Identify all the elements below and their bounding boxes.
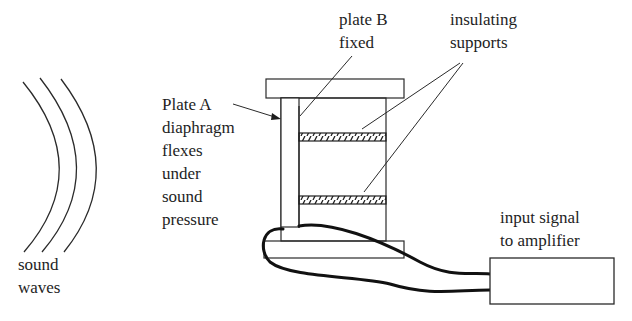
leader-plate-b bbox=[300, 56, 352, 116]
leader-plate-a bbox=[233, 104, 278, 118]
label-line: under bbox=[162, 162, 235, 185]
label-plate-a: Plate A diaphragm flexes under sound pre… bbox=[162, 93, 235, 231]
label-line: pressure bbox=[162, 208, 235, 231]
wire-plate-a bbox=[263, 229, 490, 292]
insulating-support-lower bbox=[299, 196, 386, 204]
label-line: waves bbox=[18, 276, 60, 299]
amplifier-box bbox=[490, 258, 614, 304]
insulating-support-upper bbox=[299, 133, 386, 141]
label-line: Plate A bbox=[162, 93, 235, 116]
leader-lines bbox=[233, 56, 463, 192]
sound-waves bbox=[23, 78, 96, 252]
label-sound-waves: sound waves bbox=[18, 253, 60, 299]
arrowhead-icon bbox=[271, 113, 281, 120]
label-line: fixed bbox=[339, 31, 388, 54]
label-line: diaphragm bbox=[162, 116, 235, 139]
sound-wave-arc-1 bbox=[23, 82, 59, 252]
sound-wave-arc-2 bbox=[40, 78, 77, 252]
label-line: plate B bbox=[339, 8, 388, 31]
label-line: insulating bbox=[450, 8, 517, 31]
wire-plate-b bbox=[299, 225, 490, 274]
leader-support-upper bbox=[362, 63, 460, 129]
label-line: input signal bbox=[500, 206, 580, 229]
leader-support-lower bbox=[364, 63, 463, 192]
label-insulating-supports: insulating supports bbox=[450, 8, 517, 54]
label-line: flexes bbox=[162, 139, 235, 162]
insulating-supports bbox=[299, 133, 386, 204]
microphone-diagram bbox=[0, 0, 632, 321]
sound-wave-arc-3 bbox=[61, 79, 96, 252]
label-plate-b: plate B fixed bbox=[339, 8, 388, 54]
label-line: to amplifier bbox=[500, 229, 580, 252]
label-line: supports bbox=[450, 31, 517, 54]
top-bar bbox=[266, 79, 404, 98]
plate-a-diaphragm bbox=[281, 98, 299, 227]
label-line: sound bbox=[18, 253, 60, 276]
label-line: sound bbox=[162, 185, 235, 208]
label-amplifier: input signal to amplifier bbox=[500, 206, 580, 252]
